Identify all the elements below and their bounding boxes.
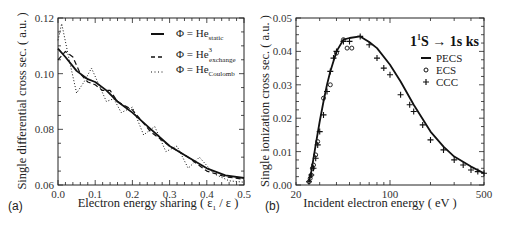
legend-label-ccc: CCC xyxy=(436,76,458,88)
legend-label-pecs: PECS xyxy=(436,52,462,64)
y-tick-label-b: 0.02 xyxy=(273,112,292,124)
panel-a-chart: 0.00.10.20.30.40.50.060.080.100.12 Φ = H… xyxy=(8,12,251,213)
panel-label-a: (a) xyxy=(8,199,23,213)
y-tick-label-b: 0.01 xyxy=(273,146,292,158)
x-axis-label-b: Incident electron energy ( eV ) xyxy=(303,196,456,210)
y-tick-label-b: 0.00 xyxy=(273,179,293,191)
y-tick-label-b: 0.04 xyxy=(273,45,293,57)
legend-b: PECS ECS CCC xyxy=(421,52,462,88)
x-tick-label-b: 20 xyxy=(291,188,303,200)
ccc-marker xyxy=(327,68,333,74)
y-tick-label-a: 0.10 xyxy=(35,68,55,80)
x-axis-label-a: Electron energy sharing ( ε1 / ε ) xyxy=(78,196,239,212)
ccc-marker xyxy=(381,65,387,71)
ccc-marker xyxy=(481,170,487,176)
legend-marker-ccc xyxy=(423,79,429,85)
ecs-marker xyxy=(350,46,354,50)
panel-b-chart: 201005000.000.010.020.030.040.05 11S → 1… xyxy=(258,12,493,213)
series-group-a xyxy=(58,24,244,183)
y-axis-label-b: Single ionization cross sec. ( a.u. ) xyxy=(258,15,272,187)
y-tick-label-a: 0.12 xyxy=(35,12,54,24)
legend-label-static: Φ = Hestatic xyxy=(176,27,223,42)
plot-frame-a xyxy=(58,18,244,185)
legend-a: Φ = Hestatic Φ = He3exchange Φ = HeCoulo… xyxy=(151,27,236,78)
ccc-marker xyxy=(387,72,393,78)
y-tick-label-b: 0.03 xyxy=(273,79,293,91)
legend-label-exchange: Φ = He3exchange xyxy=(176,46,236,64)
ccc-marker xyxy=(374,55,380,61)
ecs-marker xyxy=(328,83,332,87)
x-tick-label-b: 500 xyxy=(476,188,493,200)
legend-marker-ecs xyxy=(424,68,428,72)
legend-label-coulomb: Φ = HeCoulomb xyxy=(176,63,235,78)
y-tick-label-a: 0.08 xyxy=(35,123,55,135)
y-axis-label-a: Single differential cross sec. ( a.u. ) xyxy=(15,12,29,189)
y-tick-label-a: 0.06 xyxy=(35,179,55,191)
y-tick-label-b: 0.05 xyxy=(273,12,293,24)
series-line-solid xyxy=(58,49,244,178)
panel-label-b: (b) xyxy=(265,199,280,213)
ecs-marker xyxy=(345,46,349,50)
ccc-marker xyxy=(398,92,404,98)
transition-title: 11S → 1s ks xyxy=(410,33,480,49)
x-tick-label-a: 0.5 xyxy=(237,188,251,200)
legend-label-ecs: ECS xyxy=(436,64,456,76)
figure: 0.00.10.20.30.40.50.060.080.100.12 Φ = H… xyxy=(0,0,506,226)
series-line-dotted xyxy=(58,24,244,183)
ccc-marker xyxy=(428,137,434,143)
